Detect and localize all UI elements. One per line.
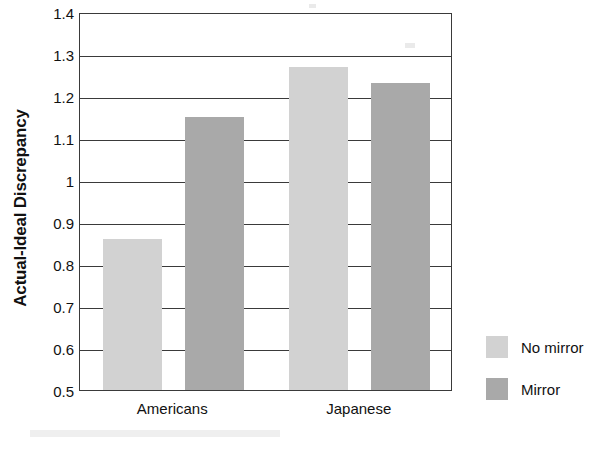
y-axis-tick-label: 0.8 [26,257,74,274]
y-axis-tick-label: 0.9 [26,215,74,232]
bar [185,117,244,390]
scan-artifact-bottom [30,430,280,437]
y-axis-tick-label: 0.6 [26,341,74,358]
scan-artifact-top [309,4,316,8]
legend-label: No mirror [521,339,584,356]
x-axis-category-labels: AmericansJapanese [79,400,452,426]
y-axis-tick-label: 1.3 [26,47,74,64]
y-axis-tick-label: 0.7 [26,299,74,316]
legend-swatch [486,336,508,358]
legend-label: Mirror [521,381,560,398]
y-axis-tick-label: 1.4 [26,5,74,22]
bar [289,67,348,390]
y-axis-tick-label: 1.2 [26,89,74,106]
y-axis-tick-label: 1 [26,173,74,190]
legend-item: Mirror [486,368,604,410]
x-axis-category-label: Japanese [279,400,439,417]
bar [103,239,162,390]
plot-area [79,13,452,391]
bars-layer [80,14,451,390]
y-axis-tick-labels: 1.41.31.21.110.90.80.70.60.5 [26,0,74,450]
x-axis-category-label: Americans [92,400,252,417]
legend-swatch [486,378,508,400]
legend-item: No mirror [486,326,604,368]
y-axis-tick-label: 0.5 [26,383,74,400]
y-axis-tick-label: 1.1 [26,131,74,148]
bar [371,83,430,390]
chart-legend: No mirrorMirror [486,326,604,410]
bar-chart-figure: Actual-Ideal Discrepancy 1.41.31.21.110.… [0,0,608,450]
